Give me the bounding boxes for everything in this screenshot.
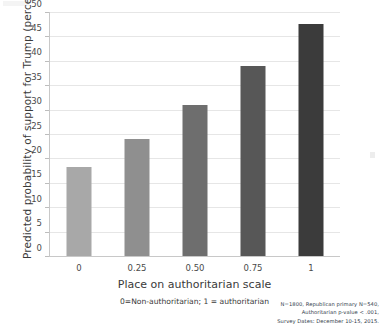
plot-area: 05101520253035404550 00.250.500.751: [49, 12, 340, 257]
y-axis-tick-label: 0: [37, 243, 42, 253]
footnote-line-2: Authoritarian p-value < .001,: [277, 308, 379, 316]
y-axis-tick-label: 50: [31, 0, 42, 9]
y-axis-tick-label: 15: [31, 169, 42, 179]
bar[interactable]: [241, 66, 266, 256]
x-axis-tick-label: 0.25: [128, 263, 147, 273]
bar-group: 0.50: [166, 12, 224, 256]
x-axis-line: [49, 256, 340, 257]
bar-group: 0.25: [108, 12, 166, 256]
bars-group: 00.250.500.751: [50, 12, 340, 256]
x-axis-tick-label: 1: [308, 263, 313, 273]
y-axis-tick-label: 35: [31, 72, 42, 82]
footnote-line-3: Survey Dates: December 10-15, 2015.: [277, 317, 379, 325]
y-axis-tick: [45, 256, 49, 257]
y-axis-tick: [45, 12, 49, 13]
y-axis-tick: [45, 61, 49, 62]
y-axis-tick-label: 45: [31, 23, 42, 33]
footnote: N=1800, Republican primary N=540, Author…: [277, 300, 379, 325]
y-axis-tick-label: 30: [31, 96, 42, 106]
footnote-line-1: N=1800, Republican primary N=540,: [277, 300, 379, 308]
bar-group: 0.75: [224, 12, 282, 256]
y-axis-tick: [45, 183, 49, 184]
y-axis-tick-label: 10: [31, 194, 42, 204]
x-axis-tick-label: 0.50: [186, 263, 205, 273]
y-axis-tick: [45, 232, 49, 233]
x-axis-tick-label: 0.75: [244, 263, 263, 273]
chart-figure: Predicted probability of support for Tru…: [0, 0, 381, 330]
bar[interactable]: [183, 105, 208, 256]
bar-group: 0: [50, 12, 108, 256]
bar-group: 1: [282, 12, 340, 256]
bar[interactable]: [125, 139, 150, 256]
y-axis-tick: [45, 36, 49, 37]
y-axis-tick: [45, 134, 49, 135]
x-axis-tick-label: 0: [76, 263, 81, 273]
y-axis-tick-label: 5: [37, 218, 42, 228]
y-axis-tick-label: 25: [31, 121, 42, 131]
y-axis-tick: [45, 207, 49, 208]
scan-artifact-right: [370, 152, 375, 158]
y-axis-tick: [45, 110, 49, 111]
bar[interactable]: [67, 167, 92, 256]
y-axis-tick-label: 40: [31, 47, 42, 57]
bar[interactable]: [299, 24, 324, 256]
x-axis-title: Place on authoritarian scale: [49, 278, 340, 291]
y-axis-tick: [45, 85, 49, 86]
y-axis-tick: [45, 158, 49, 159]
y-axis-tick-label: 20: [31, 145, 42, 155]
